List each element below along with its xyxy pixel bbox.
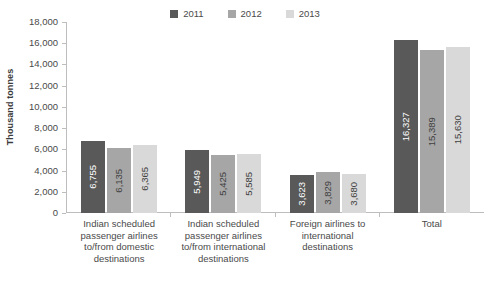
y-tick-label: 10,000 bbox=[29, 102, 58, 112]
y-axis-title: Thousand tonnes bbox=[2, 0, 18, 213]
bar-group: 16,32715,38915,630 bbox=[380, 22, 484, 213]
bar-group: 6,7556,1356,365 bbox=[67, 22, 171, 213]
bar-value-label: 5,425 bbox=[219, 172, 229, 196]
bar-2013[interactable]: 15,630 bbox=[446, 47, 470, 213]
bar-group: 5,9495,4255,585 bbox=[171, 22, 275, 213]
bar-value-label: 6,135 bbox=[114, 169, 124, 193]
x-axis-category-label: Indian scheduled passenger airlines to/f… bbox=[67, 218, 171, 264]
bar-value-label: 3,680 bbox=[349, 182, 359, 206]
bar-2012[interactable]: 15,389 bbox=[420, 50, 444, 213]
x-axis-category-label: Indian scheduled passenger airlines to/f… bbox=[171, 218, 275, 264]
y-axis-ticks: 02,0004,0006,0008,00010,00012,00014,0001… bbox=[18, 22, 62, 213]
bar-value-label: 6,365 bbox=[140, 167, 150, 191]
plot-area: 6,7556,1356,3655,9495,4255,5853,6233,829… bbox=[66, 22, 484, 213]
x-axis-category-label: Total bbox=[380, 218, 484, 264]
legend-label-2012: 2012 bbox=[241, 9, 262, 19]
y-tick-label: 14,000 bbox=[29, 60, 58, 70]
bar-2012[interactable]: 3,829 bbox=[316, 172, 340, 213]
bar-value-label: 16,327 bbox=[401, 112, 411, 141]
y-tick-label: 12,000 bbox=[29, 81, 58, 91]
x-axis-labels: Indian scheduled passenger airlines to/f… bbox=[67, 218, 484, 264]
y-tick-label: 18,000 bbox=[29, 17, 58, 27]
y-tick-label: 2,000 bbox=[34, 187, 58, 197]
legend-item-2013: 2013 bbox=[286, 9, 320, 19]
legend-label-2011: 2011 bbox=[183, 9, 203, 19]
bar-value-label: 6,755 bbox=[88, 165, 98, 189]
bar-2013[interactable]: 3,680 bbox=[342, 174, 366, 213]
bar-value-label: 15,630 bbox=[453, 116, 463, 145]
y-tick-label: 8,000 bbox=[34, 123, 58, 133]
bar-chart: 2011 2012 2013 Thousand tonnes 02,0004,0… bbox=[0, 0, 490, 287]
legend-swatch-2013 bbox=[286, 10, 294, 18]
bar-value-label: 15,389 bbox=[427, 117, 437, 146]
bar-value-label: 5,585 bbox=[245, 171, 255, 195]
x-axis-group-separator bbox=[379, 213, 380, 217]
y-tick-label: 4,000 bbox=[34, 166, 58, 176]
bar-groups: 6,7556,1356,3655,9495,4255,5853,6233,829… bbox=[67, 22, 484, 213]
legend-item-2011: 2011 bbox=[170, 9, 203, 19]
bar-value-label: 3,829 bbox=[323, 181, 333, 205]
y-tick-label: 16,000 bbox=[29, 38, 58, 48]
bar-value-label: 3,623 bbox=[297, 182, 307, 206]
legend-swatch-2011 bbox=[170, 10, 178, 18]
bar-2012[interactable]: 5,425 bbox=[211, 155, 235, 213]
legend-item-2012: 2012 bbox=[228, 9, 262, 19]
x-axis-group-separator bbox=[170, 213, 171, 217]
bar-2011[interactable]: 6,755 bbox=[81, 141, 105, 213]
bar-2011[interactable]: 16,327 bbox=[394, 40, 418, 213]
y-tick-mark bbox=[62, 213, 66, 214]
legend-swatch-2012 bbox=[228, 10, 236, 18]
bar-group: 3,6233,8293,680 bbox=[276, 22, 380, 213]
x-axis-group-separator bbox=[275, 213, 276, 217]
x-axis-category-label: Foreign airlines to international destin… bbox=[276, 218, 380, 264]
bar-2013[interactable]: 5,585 bbox=[237, 154, 261, 213]
bar-2011[interactable]: 5,949 bbox=[185, 150, 209, 213]
bar-2012[interactable]: 6,135 bbox=[107, 148, 131, 213]
bar-2011[interactable]: 3,623 bbox=[290, 175, 314, 213]
y-tick-label: 6,000 bbox=[34, 145, 58, 155]
y-axis-title-text: Thousand tonnes bbox=[5, 68, 15, 145]
bar-2013[interactable]: 6,365 bbox=[133, 145, 157, 213]
legend-label-2013: 2013 bbox=[299, 9, 320, 19]
y-tick-label: 0 bbox=[53, 208, 58, 218]
bar-value-label: 5,949 bbox=[193, 170, 203, 194]
chart-legend: 2011 2012 2013 bbox=[0, 9, 490, 19]
